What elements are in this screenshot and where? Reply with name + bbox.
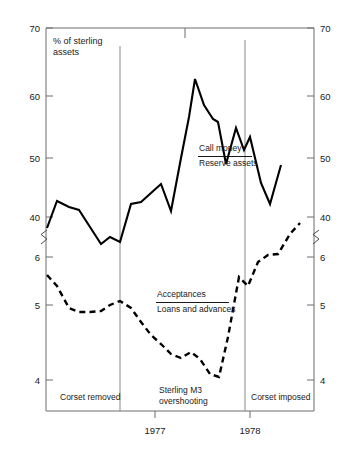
y-tick-label-right-70: 70 [320,23,331,34]
annotation-call-money-denominator: Reserve assets [199,158,258,168]
y-axis-title-line2: assets [53,47,80,57]
y-axis-ticks-left [46,28,53,380]
annotation-acceptances-denominator: Loans and advances [157,304,235,314]
chart-figure: 70 60 50 40 6 5 4 70 60 50 40 6 5 4 % of… [0,0,361,460]
y-axis-title-line1: % of sterling [53,36,103,46]
y-tick-label-right-60: 60 [320,91,331,102]
x-tick-label-1977: 1977 [144,425,165,436]
y-axis-ticks-right [307,28,314,380]
annotation-call-money-numerator: Call money [199,143,242,153]
y-tick-label-right-40: 40 [320,212,331,223]
y-tick-label-left-4: 4 [35,375,40,386]
series-acceptances-loans-advances [47,223,300,377]
y-tick-label-left-5: 5 [35,300,40,311]
annotation-acceptances: Acceptances Loans and advances [156,289,235,314]
x-tick-label-1978: 1978 [239,425,260,436]
x-axis-ticks [155,28,250,418]
y-tick-label-left-40: 40 [29,212,40,223]
annotation-sterling-m3-line2: overshooting [159,396,208,406]
y-tick-label-left-6: 6 [35,252,40,263]
annotation-corset-imposed: Corset imposed [251,392,311,402]
annotation-acceptances-numerator: Acceptances [157,289,206,299]
y-tick-label-right-6: 6 [320,252,325,263]
y-tick-label-left-50: 50 [29,153,40,164]
y-tick-label-right-5: 5 [320,300,325,311]
y-tick-label-left-70: 70 [29,23,40,34]
y-tick-label-right-50: 50 [320,153,331,164]
y-tick-label-right-4: 4 [320,375,325,386]
annotation-corset-removed: Corset removed [60,392,121,402]
chart-svg: 70 60 50 40 6 5 4 70 60 50 40 6 5 4 % of… [0,0,361,460]
annotation-sterling-m3-line1: Sterling M3 [159,385,202,395]
y-tick-label-left-60: 60 [29,91,40,102]
